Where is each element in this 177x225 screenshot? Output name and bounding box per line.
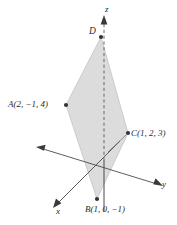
y-axis-label: y: [162, 180, 166, 189]
point-a-label: A(2, −1, 4): [8, 100, 48, 109]
z-axis-label: z: [105, 5, 109, 14]
x-axis-label: x: [56, 207, 60, 216]
point-c-marker: [126, 131, 130, 135]
point-c-label: C(1, 2, 3): [131, 129, 166, 138]
z-axis-arrowhead-icon: [101, 15, 108, 25]
point-b-marker: [95, 197, 99, 201]
point-d-marker: [99, 35, 103, 39]
y-axis-negative-arrowhead-icon: [36, 145, 46, 151]
point-b-label: B(1, 0, −1): [85, 205, 125, 214]
figure-container: A(2, −1, 4) C(1, 2, 3) B(1, 0, −1) D x y…: [0, 0, 177, 225]
point-a-marker: [64, 103, 68, 107]
parallelogram-plane: [66, 37, 128, 199]
point-d-label: D: [89, 27, 96, 37]
